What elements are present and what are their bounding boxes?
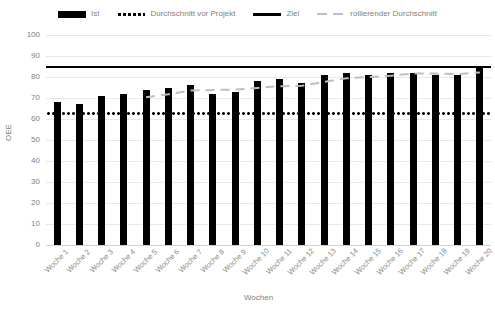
solid-line-swatch-icon bbox=[253, 13, 281, 16]
dotted-line-swatch-icon bbox=[117, 13, 145, 16]
plot-area bbox=[46, 35, 491, 245]
x-tick-label: Woche 1 bbox=[43, 247, 70, 274]
x-tick-label: Woche 3 bbox=[87, 247, 114, 274]
y-tick-label: 90 bbox=[0, 52, 40, 60]
legend-item-ziel[interactable]: Ziel bbox=[253, 10, 299, 18]
chart-legend: Ist Durchschnitt vor Projekt Ziel rollie… bbox=[0, 4, 495, 24]
y-tick-label: 50 bbox=[0, 136, 40, 144]
legend-label-ziel: Ziel bbox=[286, 10, 299, 18]
y-tick-label: 10 bbox=[0, 220, 40, 228]
y-tick-label: 30 bbox=[0, 178, 40, 186]
y-tick-label: 20 bbox=[0, 199, 40, 207]
x-tick-label: Woche 6 bbox=[154, 247, 181, 274]
legend-label-durchschnitt-vor-projekt: Durchschnitt vor Projekt bbox=[150, 10, 235, 18]
bar-swatch-icon bbox=[58, 11, 86, 18]
plot-wrapper: 1009080706050403020100 bbox=[0, 30, 495, 250]
x-tick-label: Woche 7 bbox=[176, 247, 203, 274]
legend-label-rollierender-durchschnitt: rollierender Durchschnitt bbox=[350, 10, 437, 18]
legend-item-ist[interactable]: Ist bbox=[58, 10, 99, 18]
x-tick-label: Woche 4 bbox=[110, 247, 137, 274]
legend-item-rollierender-durchschnitt[interactable]: rollierender Durchschnitt bbox=[317, 10, 437, 18]
x-axis-title: Wochen bbox=[0, 293, 495, 302]
y-tick-label: 80 bbox=[0, 73, 40, 81]
x-tick-label: Woche 2 bbox=[65, 247, 92, 274]
dashed-line-swatch-icon bbox=[317, 13, 345, 15]
y-tick-label: 40 bbox=[0, 157, 40, 165]
y-tick-label: 100 bbox=[0, 31, 40, 39]
x-tick-label: Woche 8 bbox=[199, 247, 226, 274]
x-tick-label: Woche 5 bbox=[132, 247, 159, 274]
rolling-average-line bbox=[46, 35, 491, 245]
y-tick-label: 70 bbox=[0, 94, 40, 102]
y-tick-label: 0 bbox=[0, 241, 40, 249]
legend-label-ist: Ist bbox=[91, 10, 99, 18]
x-axis-line bbox=[46, 245, 491, 246]
legend-item-durchschnitt-vor-projekt[interactable]: Durchschnitt vor Projekt bbox=[117, 10, 235, 18]
oee-bar-chart: Ist Durchschnitt vor Projekt Ziel rollie… bbox=[0, 0, 495, 317]
y-tick-label: 60 bbox=[0, 115, 40, 123]
